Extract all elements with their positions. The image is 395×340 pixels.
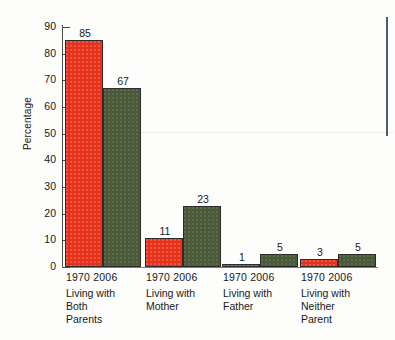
bar-2006[interactable]: 67 [103,88,141,267]
y-axis-tick-label: 40 [30,153,56,165]
y-axis-tick-label: 0 [30,260,56,272]
bar-value-label: 11 [146,225,184,237]
bar-2006[interactable]: 5 [338,254,376,267]
bar-2006[interactable]: 23 [183,206,221,267]
y-axis-tick-label: 50 [30,127,56,139]
category-years-label: 1970 2006 [66,271,158,283]
bar-value-label: 67 [104,75,142,87]
bar-1970[interactable]: 85 [65,40,103,267]
category-name-label: Living withBothParents [66,287,158,326]
bar-value-label: 5 [261,241,299,253]
y-axis-tick-label: 10 [30,233,56,245]
bar-group: 1123 [145,27,221,267]
bar-group: 35 [300,27,376,267]
x-axis-line [62,267,378,268]
category-label-group: 1970 2006Living withNeitherParent [301,271,393,326]
y-axis-tick [63,267,70,268]
bar-group: 8567 [65,27,141,267]
y-axis-tick-label: 70 [30,73,56,85]
category-name-line: Parent [301,313,393,326]
bar-1970[interactable]: 1 [222,264,260,267]
y-axis-tick-label: 20 [30,207,56,219]
bar-1970[interactable]: 3 [300,259,338,267]
page-edge-rule [386,17,388,136]
category-name-line: Living with [66,287,158,300]
y-axis-tick-label: 80 [30,47,56,59]
bar-value-label: 85 [66,27,104,39]
bar-value-label: 1 [223,251,261,263]
y-axis-tick-label: 60 [30,100,56,112]
category-name-label: Living withNeitherParent [301,287,393,326]
bar-value-label: 3 [301,246,339,258]
category-name-line: Neither [301,300,393,313]
category-name-line: Living with [301,287,393,300]
category-years-label: 1970 2006 [301,271,393,283]
bar-2006[interactable]: 5 [260,254,298,267]
grouped-bar-chart: Percentage 9080706050403020100 856711231… [0,0,395,340]
y-axis-tick-label: 30 [30,180,56,192]
category-name-line: Parents [66,313,158,326]
bar-value-label: 5 [339,241,377,253]
y-axis-tick-label: 90 [30,20,56,32]
bar-group: 15 [222,27,298,267]
plot-area: 856711231535 [62,27,378,267]
bar-value-label: 23 [184,193,222,205]
bar-1970[interactable]: 11 [145,238,183,267]
category-label-group: 1970 2006Living withBothParents [66,271,158,326]
category-name-line: Both [66,300,158,313]
